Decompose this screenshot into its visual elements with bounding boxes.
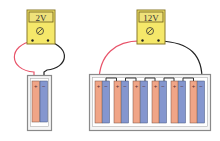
meter-reading-right: 12V [143,13,159,23]
svg-text:−: − [199,83,203,89]
minus-sign: − [42,83,46,89]
svg-text:+: + [116,83,120,89]
svg-text:+: + [135,83,139,89]
left-setup: 2V + − [14,10,64,131]
right-setup: 12V + − [90,10,211,131]
svg-text:+: + [154,83,158,89]
cell-1: + − [95,81,110,123]
svg-text:−: − [123,83,127,89]
probe-terminal-positive [31,39,33,41]
svg-text:+: + [192,83,196,89]
svg-text:+: + [97,83,101,89]
meter-reading-left: 2V [36,13,48,23]
cell-2: + − [114,81,129,123]
svg-text:+: + [173,83,177,89]
probe-terminal-negative [47,39,49,41]
plus-sign: + [34,83,38,89]
voltmeter-left: 2V [27,10,55,44]
cell-holder-left: + − [28,76,52,131]
voltmeter-right: 12V [137,10,165,44]
cell-holder-right: + − + − + − + − [90,75,211,131]
probe-terminal-negative [157,39,159,41]
svg-text:−: − [161,83,165,89]
probe-terminal-positive [141,39,143,41]
svg-text:−: − [104,83,108,89]
cell-3: + − [133,81,148,123]
cell-5: + − [171,81,186,123]
svg-text:−: − [142,83,146,89]
cell-4: + − [152,81,167,123]
battery-diagram: 2V + − 12V [0,0,220,141]
svg-text:−: − [180,83,184,89]
cell-6: + − [190,81,205,123]
